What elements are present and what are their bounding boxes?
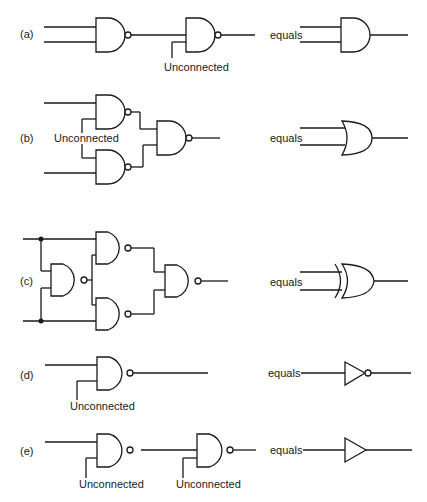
xor-gate-icon — [342, 264, 374, 298]
row-c-circuit — [23, 232, 408, 330]
nand-gate-icon — [97, 357, 122, 390]
logic-diagram — [0, 0, 427, 502]
nand-gate-icon — [186, 18, 215, 52]
nand-gate-icon — [96, 298, 119, 330]
nand-gate-icon — [51, 264, 74, 296]
buffer-gate-icon — [345, 438, 366, 462]
unconnected-label: Unconnected — [79, 479, 144, 490]
nand-gate-icon — [157, 121, 186, 155]
row-e-circuit — [45, 434, 412, 478]
unconnected-label: Unconnected — [176, 479, 241, 490]
not-gate-icon — [345, 362, 365, 385]
xor-input-arc-icon — [335, 264, 341, 298]
row-b-label: (b) — [20, 133, 33, 144]
row-d-circuit — [45, 357, 411, 400]
nand-gate-icon — [96, 18, 125, 52]
nand-gate-icon — [96, 150, 125, 184]
or-gate-icon — [342, 121, 372, 155]
nand-gate-icon — [197, 434, 222, 467]
row-d-label: (d) — [20, 370, 33, 381]
row-a-label: (a) — [20, 29, 33, 40]
equals-label: equals — [270, 277, 302, 288]
nand-gate-icon — [96, 232, 119, 264]
row-e-label: (e) — [20, 446, 33, 457]
equals-label: equals — [270, 445, 303, 456]
and-gate-icon — [341, 18, 370, 52]
unconnected-label: Unconnected — [164, 62, 229, 73]
row-c-label: (c) — [20, 276, 33, 287]
nand-gate-icon — [96, 95, 125, 129]
nand-gate-icon — [165, 265, 188, 297]
nand-gate-icon — [97, 434, 122, 467]
equals-label: equals — [270, 30, 302, 41]
unconnected-label: Unconnected — [53, 133, 120, 144]
equals-label: equals — [270, 133, 302, 144]
row-a-circuit — [44, 18, 408, 58]
equals-label: equals — [268, 368, 301, 379]
unconnected-label: Unconnected — [70, 401, 135, 412]
